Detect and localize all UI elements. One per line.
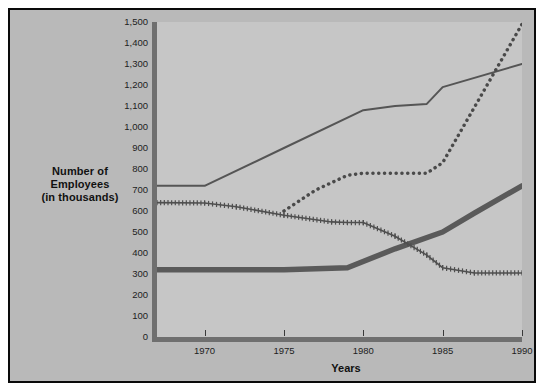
x-tick-label: 1985 — [423, 345, 463, 356]
x-tick-mark — [363, 330, 364, 336]
x-tick-label: 1970 — [185, 345, 225, 356]
x-tick-mark — [205, 330, 206, 336]
x-tick-label: 1990 — [502, 345, 542, 356]
y-tick-label: 0 — [102, 332, 148, 342]
x-tick-mark — [443, 330, 444, 336]
series-line-dotted-series — [284, 24, 522, 211]
series-line-thick-solid-series — [157, 186, 522, 270]
y-tick-label: 200 — [102, 290, 148, 300]
x-tick-mark — [284, 330, 285, 336]
y-tick-label: 100 — [102, 311, 148, 321]
y-tick-label: 1,500 — [102, 17, 148, 27]
y-tick-label: 900 — [102, 143, 148, 153]
plot-area — [152, 22, 522, 342]
series-markers-plus-marker-series — [157, 200, 522, 276]
y-tick-label: 1,300 — [102, 59, 148, 69]
y-tick-label: 800 — [102, 164, 148, 174]
y-tick-label: 300 — [102, 269, 148, 279]
x-axis-label: Years — [160, 362, 532, 374]
x-tick-label: 1980 — [343, 345, 383, 356]
x-tick-label: 1975 — [264, 345, 304, 356]
chart-figure: Number of Employees (in thousands) 01002… — [8, 8, 536, 383]
series-line-plus-marker-series — [157, 203, 522, 273]
y-tick-label: 700 — [102, 185, 148, 195]
y-tick-label: 1,400 — [102, 38, 148, 48]
series-line-thin-solid-series — [157, 64, 522, 186]
y-tick-label: 1,000 — [102, 122, 148, 132]
y-tick-label: 1,200 — [102, 80, 148, 90]
y-tick-label: 500 — [102, 227, 148, 237]
y-tick-label: 600 — [102, 206, 148, 216]
x-tick-mark — [522, 330, 523, 336]
y-tick-label: 400 — [102, 248, 148, 258]
y-tick-label: 1,100 — [102, 101, 148, 111]
plot-inner — [157, 22, 522, 337]
series-layer — [157, 22, 522, 337]
